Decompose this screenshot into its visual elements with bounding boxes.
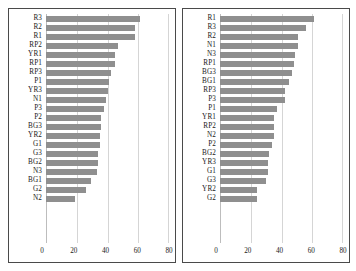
bar-row: N2 <box>12 194 169 203</box>
bar-track <box>46 86 169 95</box>
bar-track <box>220 41 343 50</box>
category-label: YR2 <box>12 131 46 140</box>
bar <box>220 178 266 184</box>
bar-track <box>220 86 343 95</box>
bar-track <box>46 113 169 122</box>
category-label: R2 <box>12 23 46 32</box>
bar-track <box>220 50 343 59</box>
bar-track <box>220 104 343 113</box>
bar-row: P1 <box>12 77 169 86</box>
category-label: P2 <box>186 140 220 149</box>
category-label: P2 <box>12 113 46 122</box>
category-label: RP1 <box>186 59 220 68</box>
bar <box>220 34 298 40</box>
bar-row: N1 <box>186 41 343 50</box>
bar <box>220 151 269 157</box>
x-tick-label: 40 <box>276 247 283 255</box>
category-label: G3 <box>186 176 220 185</box>
category-label: P3 <box>186 95 220 104</box>
bar <box>220 52 295 58</box>
bar-track <box>46 149 169 158</box>
bar-track <box>46 68 169 77</box>
bar-track <box>220 59 343 68</box>
bar-row: RP3 <box>12 68 169 77</box>
bar-row: BG2 <box>186 149 343 158</box>
bar <box>220 187 257 193</box>
bar <box>220 115 274 121</box>
bar-row: YR1 <box>12 50 169 59</box>
bar-row: P3 <box>12 104 169 113</box>
bar-row: YR3 <box>186 158 343 167</box>
chart-panel-left: R3R2R1RP2YR1RP1RP3P1YR3N1P3P2BG3YR2G1G3B… <box>8 8 176 263</box>
bar-row: R3 <box>186 23 343 32</box>
x-tick-label: 80 <box>339 247 346 255</box>
bar-track <box>220 122 343 131</box>
bar-row: RP2 <box>12 41 169 50</box>
bar-row: R3 <box>12 14 169 23</box>
bar <box>46 16 140 22</box>
bar-row: RP3 <box>186 86 343 95</box>
x-tick-label: 0 <box>214 247 218 255</box>
bar-track <box>46 77 169 86</box>
bar-track <box>220 131 343 140</box>
plot-area-left: R3R2R1RP2YR1RP1RP3P1YR3N1P3P2BG3YR2G1G3B… <box>12 14 169 243</box>
category-label: N2 <box>186 131 220 140</box>
bar <box>46 124 101 130</box>
category-label: RP3 <box>12 68 46 77</box>
bar-row: N3 <box>186 50 343 59</box>
category-label: R3 <box>186 23 220 32</box>
bar-track <box>46 50 169 59</box>
category-label: YR1 <box>12 50 46 59</box>
category-label: R1 <box>12 32 46 41</box>
bar-track <box>46 23 169 32</box>
bar <box>220 61 294 67</box>
bar <box>46 178 91 184</box>
bar-row: RP1 <box>186 59 343 68</box>
bar-row: R2 <box>12 23 169 32</box>
figure: R3R2R1RP2YR1RP1RP3P1YR3N1P3P2BG3YR2G1G3B… <box>0 0 356 271</box>
bar-track <box>46 176 169 185</box>
bar-track <box>220 14 343 23</box>
bar <box>46 97 106 103</box>
bar <box>220 106 277 112</box>
bar <box>46 169 97 175</box>
bar-row: RP2 <box>186 122 343 131</box>
bar <box>46 151 98 157</box>
bar <box>220 97 285 103</box>
category-label: RP2 <box>12 41 46 50</box>
bar <box>46 160 98 166</box>
bar-track <box>46 194 169 203</box>
bar-track <box>220 167 343 176</box>
category-label: BG2 <box>186 149 220 158</box>
bar-track <box>46 158 169 167</box>
bar <box>46 196 75 202</box>
bar <box>220 160 268 166</box>
bar <box>220 196 257 202</box>
plot-area-right: R1R3R2N1N3RP1BG3BG1RP3P3P1YR1RP2N2P2BG2Y… <box>186 14 343 243</box>
category-label: N1 <box>12 95 46 104</box>
bar-row: BG1 <box>12 176 169 185</box>
bar <box>46 52 115 58</box>
bar-row: BG1 <box>186 77 343 86</box>
bar <box>46 187 86 193</box>
bar-row: BG2 <box>12 158 169 167</box>
category-label: N3 <box>186 50 220 59</box>
bar-track <box>46 185 169 194</box>
category-label: P3 <box>12 104 46 113</box>
bar <box>46 79 109 85</box>
bar <box>220 124 274 130</box>
bar-track <box>220 194 343 203</box>
bar-track <box>46 140 169 149</box>
category-label: N1 <box>186 41 220 50</box>
bar-row: P2 <box>186 140 343 149</box>
bar <box>46 34 135 40</box>
category-label: BG3 <box>186 68 220 77</box>
x-axis-right: 020406080 <box>186 245 343 259</box>
bar-track <box>46 32 169 41</box>
bar-row: YR2 <box>12 131 169 140</box>
bar <box>46 88 108 94</box>
bar-row: N2 <box>186 131 343 140</box>
category-label: N3 <box>12 167 46 176</box>
bar-row: BG3 <box>12 122 169 131</box>
category-label: YR3 <box>186 158 220 167</box>
